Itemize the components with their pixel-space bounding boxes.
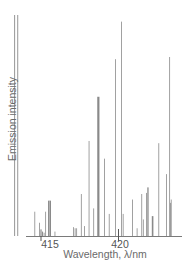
emission-line: [123, 214, 124, 236]
emission-line: [73, 227, 74, 236]
emission-line: [171, 200, 172, 236]
emission-line: [109, 214, 110, 236]
emission-line: [132, 200, 133, 236]
emission-line: [166, 174, 167, 236]
x-axis-label: Wavelength, λ/nm: [40, 248, 170, 260]
emission-line: [137, 228, 138, 236]
emission-line: [115, 59, 116, 236]
emission-line: [147, 187, 148, 236]
emission-line: [81, 194, 82, 236]
emission-line: [152, 216, 154, 236]
emission-line: [55, 232, 56, 236]
emission-line: [50, 201, 51, 236]
emission-line: [45, 212, 46, 236]
emission-line: [89, 141, 90, 236]
emission-line: [169, 57, 170, 236]
emission-line: [76, 228, 77, 236]
emission-spectrum-chart: [0, 0, 191, 277]
emission-line: [97, 97, 99, 236]
emission-line: [93, 208, 94, 236]
emission-line: [170, 203, 171, 236]
emission-line: [84, 226, 85, 236]
emission-line: [44, 233, 45, 236]
emission-line: [146, 193, 147, 236]
emission-line: [158, 143, 159, 236]
emission-lines: [14, 15, 171, 236]
emission-line: [34, 212, 35, 236]
emission-line: [141, 194, 142, 236]
emission-line: [143, 219, 144, 236]
emission-line: [121, 22, 122, 236]
y-axis-label: Emission intensity: [6, 74, 20, 164]
emission-line: [39, 223, 40, 236]
emission-line: [104, 159, 105, 236]
emission-line: [40, 229, 41, 236]
emission-line: [75, 228, 76, 236]
emission-line: [48, 201, 49, 236]
emission-line: [42, 232, 43, 236]
